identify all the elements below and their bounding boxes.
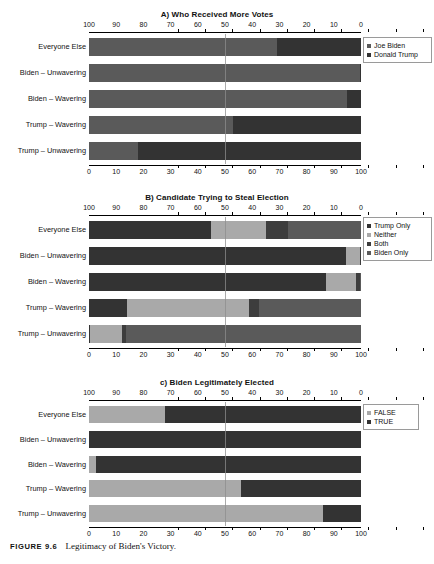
bar-segment[interactable]	[96, 456, 361, 473]
axis-tick	[260, 397, 261, 400]
axis-tick-label: 80	[297, 351, 317, 358]
axis-tick-label: 10	[106, 530, 126, 537]
bar-segment[interactable]	[360, 64, 361, 82]
bar-segment[interactable]	[89, 273, 326, 291]
bar-segment[interactable]	[346, 247, 360, 265]
bar-segment[interactable]	[89, 142, 138, 160]
axis-tick-label: 70	[269, 530, 289, 537]
axis-tick-label: 60	[188, 389, 208, 396]
bar-segment[interactable]	[127, 299, 249, 317]
bar-segment[interactable]	[288, 221, 361, 239]
legend-item: Both	[367, 239, 427, 248]
legend-swatch-icon	[367, 224, 371, 228]
legend-swatch-icon	[367, 44, 371, 48]
axis-tick-label: 70	[269, 168, 289, 175]
axis-tick-label: 40	[242, 204, 262, 211]
axis-tick	[368, 397, 369, 400]
legend-label: Joe Biden	[374, 41, 405, 50]
panel-c-title: c) Biden Legitimately Elected	[0, 378, 434, 387]
bar-segment[interactable]	[211, 221, 265, 239]
bar-segment[interactable]	[277, 38, 361, 56]
axis-tick-label: 50	[215, 351, 235, 358]
axis-tick-label: 90	[106, 389, 126, 396]
axis-tick-label: 30	[161, 168, 181, 175]
bar-segment[interactable]	[233, 116, 361, 134]
axis-tick-label: 70	[161, 204, 181, 211]
axis-tick-label: 10	[106, 351, 126, 358]
bar-segment[interactable]	[90, 325, 121, 343]
bar-segment[interactable]	[360, 273, 361, 291]
bar-segment[interactable]	[89, 38, 277, 56]
axis-tick-label: 10	[324, 389, 344, 396]
axis-tick-label: 20	[297, 21, 317, 28]
legend-swatch-icon	[367, 233, 371, 237]
bar-segment[interactable]	[89, 221, 211, 239]
axis-tick-label: 100	[79, 389, 99, 396]
bar-segment[interactable]	[138, 142, 361, 160]
axis-tick-label: 80	[297, 530, 317, 537]
axis-tick-label: 10	[324, 204, 344, 211]
legend-item: Donald Trump	[367, 50, 427, 59]
axis-tick-label: 100	[351, 530, 371, 537]
bar-segment[interactable]	[165, 406, 361, 423]
bar-segment[interactable]	[323, 505, 361, 522]
axis-tick-label: 100	[79, 204, 99, 211]
axis-tick	[368, 212, 369, 215]
axis-tick-label: 40	[242, 21, 262, 28]
legend-swatch-icon	[367, 420, 371, 424]
panel-a-title: A) Who Received More Votes	[0, 10, 434, 19]
bar-segment[interactable]	[89, 299, 127, 317]
panel-c: c) Biden Legitimately Elected 1009080706…	[0, 370, 434, 545]
panel-c-top-axis	[89, 400, 361, 401]
bar-segment[interactable]	[347, 90, 361, 108]
panel-b: B) Candidate Trying to Steal Election 10…	[0, 185, 434, 370]
bar-segment[interactable]	[89, 90, 347, 108]
axis-tick-label: 30	[269, 204, 289, 211]
axis-tick-label: 50	[215, 204, 235, 211]
axis-tick	[341, 212, 342, 215]
bar-segment[interactable]	[89, 505, 323, 522]
axis-tick-label: 90	[324, 168, 344, 175]
panel-a: A) Who Received More Votes 1009080706050…	[0, 0, 434, 185]
bar-segment[interactable]	[89, 116, 233, 134]
panel-a-bottom-tick-labels: 0102030405060708090100	[0, 168, 434, 178]
bar-segment[interactable]	[360, 247, 361, 265]
axis-tick-label: 40	[188, 530, 208, 537]
bar-segment[interactable]	[89, 247, 346, 265]
axis-tick	[423, 29, 424, 32]
panel-c-bottom-axis	[89, 527, 361, 528]
legend-item: TRUE	[367, 417, 414, 426]
legend-swatch-icon	[367, 53, 371, 57]
panel-b-bottom-axis	[89, 348, 361, 349]
axis-tick-label: 70	[161, 389, 181, 396]
legend-label: Both	[374, 239, 388, 248]
axis-tick	[178, 212, 179, 215]
axis-tick-label: 30	[161, 351, 181, 358]
axis-tick	[341, 397, 342, 400]
bar-segment[interactable]	[241, 480, 361, 497]
legend-label: Donald Trump	[374, 50, 418, 59]
figure-caption-label: FIGURE 9.6	[10, 542, 57, 551]
legend-swatch-icon	[367, 242, 371, 246]
legend-label: Neither	[374, 230, 397, 239]
reference-line-50	[225, 217, 226, 347]
bar-segment[interactable]	[89, 406, 165, 423]
axis-tick-label: 0	[79, 530, 99, 537]
bar-segment[interactable]	[89, 480, 241, 497]
axis-tick	[396, 29, 397, 32]
axis-tick-label: 80	[133, 389, 153, 396]
axis-tick-label: 60	[188, 21, 208, 28]
bar-segment[interactable]	[266, 221, 288, 239]
bar-segment[interactable]	[249, 299, 259, 317]
bar-segment[interactable]	[326, 273, 356, 291]
axis-tick	[287, 29, 288, 32]
axis-tick-label: 80	[297, 168, 317, 175]
panel-a-top-axis	[89, 32, 361, 33]
axis-tick	[396, 212, 397, 215]
figure-container: A) Who Received More Votes 1009080706050…	[0, 0, 434, 564]
axis-tick-label: 50	[215, 21, 235, 28]
bar-segment[interactable]	[89, 456, 96, 473]
bar-segment[interactable]	[259, 299, 361, 317]
axis-tick-label: 50	[215, 389, 235, 396]
bar-segment[interactable]	[126, 325, 361, 343]
